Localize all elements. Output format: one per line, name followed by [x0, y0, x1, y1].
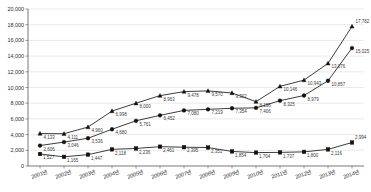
- data-point-marker-circle: [38, 144, 42, 148]
- data-point-marker-circle: [158, 113, 162, 117]
- x-axis-category-label: 2001년: [30, 168, 48, 180]
- x-axis-category-label: 2005년: [126, 168, 144, 180]
- xcat-labels-group: 2001년2002년2003년2004년2005년2006년2007년2008년…: [30, 168, 360, 180]
- data-point-label: 8,198: [260, 103, 272, 108]
- y-axis-tick-label: 0: [21, 163, 24, 169]
- data-point-label: 8,325: [284, 102, 296, 107]
- data-point-marker-square: [38, 152, 42, 156]
- data-point-label: 10,943: [308, 81, 322, 86]
- data-point-label: 8,000: [140, 104, 152, 109]
- data-point-label: 7,354: [236, 109, 248, 114]
- x-axis-category-label: 2012년: [294, 168, 312, 180]
- y-axis-tick-label: 14,000: [8, 53, 25, 59]
- data-point-label: 1,527: [43, 155, 55, 160]
- data-point-label: 13,076: [332, 64, 346, 69]
- data-point-label: 4,960: [92, 128, 104, 133]
- x-axis-category-label: 2009년: [222, 168, 240, 180]
- x-axis-category-label: 2008년: [198, 168, 216, 180]
- y-axis-tick-label: 16,000: [8, 37, 25, 43]
- data-point-marker-square: [230, 150, 234, 154]
- data-point-marker-square: [158, 145, 162, 149]
- data-point-marker-square: [278, 151, 282, 155]
- data-point-label: 1,447: [91, 156, 103, 161]
- data-point-label: 2,351: [211, 149, 223, 154]
- data-point-label: 8,979: [308, 97, 320, 102]
- x-axis-category-label: 2007년: [174, 168, 192, 180]
- data-point-marker-circle: [326, 79, 330, 83]
- data-point-marker-circle: [230, 106, 234, 110]
- data-point-label: 6,998: [116, 112, 128, 117]
- data-point-label: 5,761: [140, 122, 152, 127]
- data-point-label: 8,963: [164, 97, 176, 102]
- line-chart: 02,0004,0006,0008,00010,00012,00014,0001…: [0, 0, 371, 192]
- data-point-marker-circle: [254, 106, 258, 110]
- y-axis-tick-label: 10,000: [8, 85, 25, 91]
- data-point-marker-circle: [182, 109, 186, 113]
- data-point-label: 10,857: [332, 82, 346, 87]
- y-axis-tick-label: 12,000: [8, 69, 25, 75]
- data-point-label: 1,704: [259, 154, 271, 159]
- data-point-label: 9,302: [236, 94, 248, 99]
- data-point-label: 9,570: [212, 92, 224, 97]
- x-axis-category-label: 2011년: [270, 168, 288, 180]
- y-axis-tick-label: 6,000: [11, 116, 25, 122]
- x-axis-category-label: 2013년: [318, 168, 336, 180]
- data-point-label: 2,116: [331, 151, 342, 156]
- data-point-label: 7,080: [188, 111, 200, 116]
- data-point-label: 17,782: [356, 19, 370, 24]
- data-point-label: 2,395: [187, 148, 199, 153]
- data-point-label: 3,536: [92, 139, 104, 144]
- data-point-marker-circle: [350, 46, 354, 50]
- data-point-label: 4,111: [68, 135, 79, 140]
- x-axis-category-label: 2006년: [150, 168, 168, 180]
- data-point-marker-triangle: [302, 78, 306, 82]
- data-point-label: 4,680: [116, 130, 128, 135]
- data-point-label: 4,133: [44, 135, 56, 140]
- data-point-label: 2,236: [139, 150, 151, 155]
- x-axis-category-label: 2010년: [246, 168, 264, 180]
- data-point-marker-triangle: [86, 125, 90, 129]
- gridlines-group: [28, 9, 364, 150]
- data-point-marker-circle: [86, 136, 90, 140]
- data-point-marker-square: [326, 148, 330, 152]
- data-point-label: 7,219: [212, 110, 224, 115]
- data-point-label: 3,046: [68, 143, 80, 148]
- data-point-label: 1,800: [307, 153, 319, 158]
- ytick-labels-group: 02,0004,0006,0008,00010,00012,00014,0001…: [8, 6, 25, 169]
- data-point-marker-square: [110, 148, 114, 152]
- data-point-label: 7,406: [260, 109, 272, 114]
- x-axis-category-label: 2002년: [54, 168, 72, 180]
- data-point-marker-circle: [278, 99, 282, 103]
- data-point-label: 15,025: [356, 49, 370, 54]
- data-point-marker-square: [254, 151, 258, 155]
- x-axis-category-label: 2004년: [102, 168, 120, 180]
- data-point-marker-circle: [206, 107, 210, 111]
- y-axis-tick-label: 20,000: [8, 6, 25, 12]
- data-point-label: 6,452: [164, 116, 176, 121]
- data-point-label: 1,854: [235, 153, 247, 158]
- data-point-label: 1,737: [283, 154, 295, 159]
- data-point-marker-square: [62, 155, 66, 159]
- x-axis-category-label: 2003년: [78, 168, 96, 180]
- data-point-label: 9,478: [188, 93, 200, 98]
- data-point-marker-circle: [110, 127, 114, 131]
- data-point-label: 2,994: [355, 135, 367, 140]
- data-point-label: 2,461: [163, 148, 175, 153]
- data-point-marker-square: [302, 150, 306, 154]
- chart-canvas: 02,0004,0006,0008,00010,00012,00014,0001…: [0, 0, 371, 192]
- data-point-label: 1,165: [67, 158, 79, 163]
- data-point-marker-circle: [302, 94, 306, 98]
- y-axis-tick-label: 2,000: [11, 147, 25, 153]
- data-point-marker-square: [134, 147, 138, 151]
- y-axis-tick-label: 18,000: [8, 22, 25, 28]
- data-point-label: 10,146: [284, 87, 298, 92]
- x-axis-category-label: 2014년: [342, 168, 360, 180]
- data-point-marker-square: [350, 141, 354, 145]
- y-axis-tick-label: 8,000: [11, 100, 25, 106]
- data-point-marker-square: [206, 146, 210, 150]
- data-point-marker-circle: [62, 140, 66, 144]
- data-point-marker-square: [86, 153, 90, 157]
- data-point-label: 2,118: [115, 151, 126, 156]
- data-point-marker-square: [182, 145, 186, 149]
- y-axis-tick-label: 4,000: [11, 132, 25, 138]
